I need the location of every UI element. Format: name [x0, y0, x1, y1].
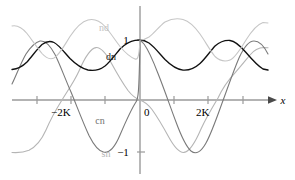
x-tick-label-origin: 0	[144, 106, 150, 118]
axes-group	[12, 6, 277, 174]
x-tick-label-pos2K: 2K	[196, 106, 210, 118]
jacobi-elliptic-functions-figure: −2K 0 2K 1 −1 x nd dn cn sn	[0, 0, 295, 180]
x-axis-arrowhead	[268, 96, 277, 104]
y-tick-label-neg1: −1	[117, 146, 129, 158]
y-tick-label-pos1: 1	[123, 34, 129, 46]
curve-label-nd: nd	[99, 22, 109, 33]
curve-label-sn: sn	[102, 148, 111, 159]
x-tick-label-neg2K: −2K	[51, 106, 71, 118]
plot-canvas: −2K 0 2K 1 −1 x nd dn cn sn	[0, 0, 295, 180]
x-axis-label: x	[280, 94, 286, 106]
curve-label-dn: dn	[106, 51, 116, 62]
curve-label-cn: cn	[95, 115, 104, 126]
